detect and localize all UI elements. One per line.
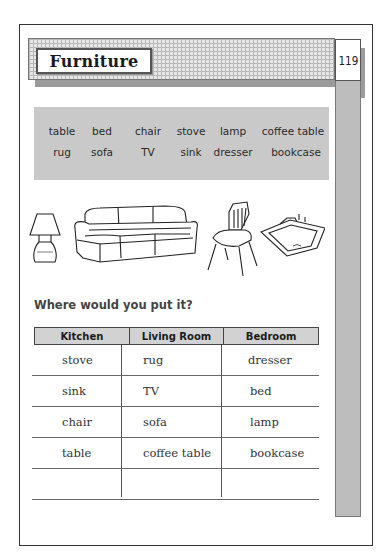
- sink-icon: [261, 214, 325, 256]
- word-bank-item: coffee table: [262, 125, 324, 137]
- page-number-box: 119: [335, 39, 361, 81]
- word-bank-item: sink: [180, 146, 201, 158]
- word-bank-item: bookcase: [271, 146, 321, 158]
- table-cell: sink: [62, 384, 86, 398]
- table-row-empty: [32, 469, 319, 500]
- sofa-icon: [75, 206, 198, 262]
- column-header-living-room: Living Room: [130, 328, 225, 344]
- word-bank-item: table: [49, 125, 76, 137]
- word-bank: table bed chair stove lamp coffee table …: [34, 107, 329, 180]
- table-body: stove rug dresser sink TV bed chair sofa…: [32, 345, 319, 500]
- table-row: sink TV bed: [32, 376, 319, 407]
- table-cell: dresser: [248, 353, 292, 367]
- table-cell: TV: [143, 384, 159, 398]
- table-cell: table: [62, 446, 91, 460]
- table-row: chair sofa lamp: [32, 407, 319, 438]
- word-bank-item: bed: [92, 125, 112, 137]
- table-cell: sofa: [143, 415, 167, 429]
- word-bank-item: rug: [53, 146, 71, 158]
- table-row: table coffee table bookcase: [32, 438, 319, 469]
- question-prompt: Where would you put it?: [34, 298, 193, 312]
- table-row: stove rug dresser: [32, 345, 319, 376]
- word-bank-item: sofa: [91, 146, 113, 158]
- lamp-icon: [30, 214, 60, 262]
- table-header: Kitchen Living Room Bedroom: [34, 327, 319, 345]
- word-bank-item: TV: [141, 146, 155, 158]
- table-cell: chair: [62, 415, 92, 429]
- title-box: Furniture: [36, 48, 152, 74]
- table-cell: coffee table: [143, 446, 211, 460]
- table-cell: rug: [143, 353, 163, 367]
- page-number-shadow: [361, 48, 365, 98]
- column-header-kitchen: Kitchen: [35, 328, 130, 344]
- illustrations: [25, 200, 325, 280]
- table-cell: stove: [62, 353, 93, 367]
- side-strip: [335, 81, 361, 517]
- table-cell: lamp: [250, 415, 279, 429]
- page-number: 119: [338, 53, 358, 68]
- header-shadow: [35, 80, 335, 87]
- word-bank-item: chair: [135, 125, 161, 137]
- word-bank-item: lamp: [220, 125, 246, 137]
- word-bank-item: stove: [177, 125, 206, 137]
- page-title: Furniture: [49, 52, 138, 71]
- chair-icon: [208, 202, 257, 276]
- word-bank-item: dresser: [214, 146, 253, 158]
- column-header-bedroom: Bedroom: [224, 328, 318, 344]
- table-cell: bed: [250, 384, 272, 398]
- table-cell: bookcase: [250, 446, 304, 460]
